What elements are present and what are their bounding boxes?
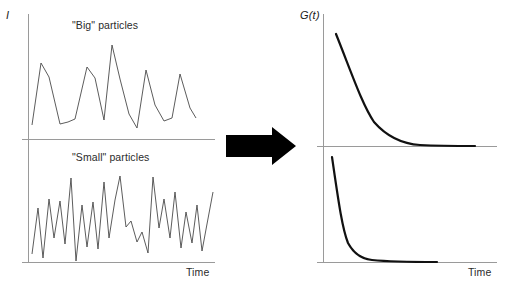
right-x-axis-label: Time xyxy=(468,266,491,278)
fast-decay-curve xyxy=(332,157,437,262)
small-particles-title: "Small" particles xyxy=(72,151,149,163)
big-particles-title: "Big" particles xyxy=(72,19,138,31)
small-particles-trace xyxy=(32,176,213,261)
right-y-axis-label: G(t) xyxy=(300,9,320,21)
fcs-figure: I "Big" particles "Small" particles Time… xyxy=(0,0,513,295)
big-particles-trace xyxy=(32,45,196,128)
slow-decay-curve xyxy=(336,34,475,146)
left-y-axis-label: I xyxy=(6,9,9,21)
right-arrow-icon xyxy=(226,127,296,165)
figure-canvas xyxy=(0,0,513,295)
left-x-axis-label: Time xyxy=(186,266,209,278)
